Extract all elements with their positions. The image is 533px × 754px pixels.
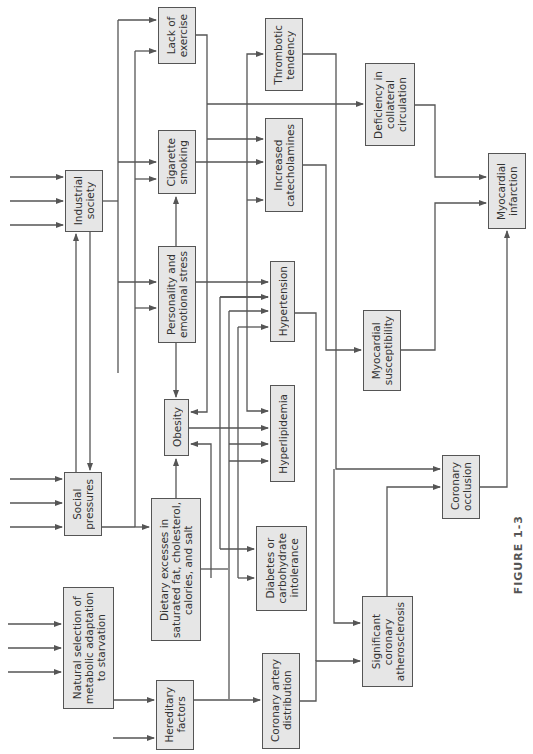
node-label: Hypertension <box>277 266 289 336</box>
node-personality-stress: Personality and emotional stress <box>158 246 196 343</box>
node-label: Personality and emotional stress <box>165 251 189 338</box>
node-label: Significant coronary atherosclerosis <box>370 602 406 681</box>
node-dietary-excesses: Dietary excesses in saturated fat, chole… <box>151 498 201 641</box>
node-label: Thrombotic tendency <box>272 25 296 85</box>
node-label: Hyperlipidemia <box>277 394 289 474</box>
node-increased-catecholamines: Increased catecholamines <box>265 118 303 212</box>
node-hyperlipidemia: Hyperlipidemia <box>270 385 295 482</box>
node-diabetes: Diabetes or carbohydrate intolerance <box>256 526 307 611</box>
node-hypertension: Hypertension <box>270 261 295 342</box>
node-label: Industrial society <box>72 176 96 225</box>
node-label: Social pressures <box>71 479 95 530</box>
node-lack-of-exercise: Lack of exercise <box>158 7 196 64</box>
node-label: Increased catecholamines <box>272 124 296 207</box>
node-label: Myocardial susceptibility <box>370 316 394 385</box>
node-deficiency-collateral: Deficiency in collateral circulation <box>365 63 415 146</box>
node-label: Obesity <box>171 407 183 447</box>
node-hereditary-factors: Hereditary factors <box>156 680 194 750</box>
node-coronary-artery-distribution: Coronary artery distribution <box>262 653 300 749</box>
node-label: Coronary occlusion <box>449 462 473 511</box>
node-label: Diabetes or carbohydrate intolerance <box>264 533 300 603</box>
node-myocardial-infarction: Myocardial infarction <box>488 153 526 229</box>
node-coronary-occlusion: Coronary occlusion <box>442 455 480 519</box>
node-thrombotic-tendency: Thrombotic tendency <box>265 18 303 91</box>
node-label: Lack of exercise <box>165 14 189 57</box>
node-coronary-atherosclerosis: Significant coronary atherosclerosis <box>362 596 413 687</box>
node-label: Cigarette smoking <box>165 138 189 187</box>
node-label: Dietary excesses in saturated fat, chole… <box>158 502 194 638</box>
node-cigarette-smoking: Cigarette smoking <box>158 130 196 194</box>
node-natural-selection: Natural selection of metabolic adaptatio… <box>63 587 114 709</box>
figure-label: FIGURE 1-3 <box>512 515 525 594</box>
node-industrial-society: Industrial society <box>65 170 103 232</box>
node-social-pressures: Social pressures <box>64 472 102 536</box>
node-label: Myocardial infarction <box>495 163 519 220</box>
node-obesity: Obesity <box>164 399 189 456</box>
node-label: Natural selection of metabolic adaptatio… <box>71 592 107 704</box>
node-label: Hereditary factors <box>163 687 187 743</box>
node-myocardial-susceptibility: Myocardial susceptibility <box>363 310 401 391</box>
node-label: Deficiency in collateral circulation <box>372 71 408 139</box>
causal-diagram: Lack of exercise Cigarette smoking Indus… <box>0 0 533 754</box>
node-label: Coronary artery distribution <box>269 659 293 742</box>
